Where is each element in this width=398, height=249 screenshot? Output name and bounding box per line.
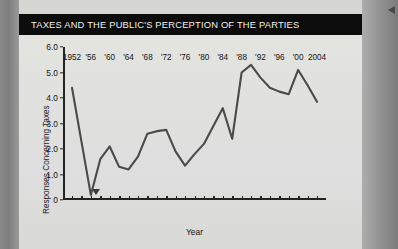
x-axis-tick-label: 1952	[63, 53, 81, 62]
x-axis-tick-mark	[72, 196, 73, 200]
plot-area: 01.02.03.04.05.06.0 1952'56'60'64'68'72'…	[63, 47, 326, 200]
x-axis-tick-label: '88	[236, 53, 247, 62]
page-corner-arrow-icon	[388, 6, 395, 14]
x-axis-tick-mark	[308, 196, 309, 200]
x-axis-tick-mark	[204, 196, 205, 200]
axis-marker-triangle-icon	[92, 189, 100, 195]
y-axis-label: Responses Concerning Taxes	[39, 95, 53, 225]
x-axis-tick-label: '80	[199, 53, 210, 62]
x-axis-tick-mark	[232, 196, 233, 200]
y-axis-tick-mark	[60, 199, 64, 200]
paper-top-margin	[19, 0, 362, 14]
x-axis-tick-label: '56	[86, 53, 97, 62]
x-axis-tick-mark	[119, 196, 120, 200]
x-axis-tick-mark	[298, 196, 299, 200]
x-axis-tick-mark	[91, 196, 92, 200]
x-axis-tick-mark	[176, 196, 177, 200]
line-series-responses-concerning-taxes	[63, 47, 326, 200]
y-axis-tick-mark	[60, 97, 64, 98]
x-axis-tick-mark	[289, 196, 290, 200]
page-root: TAXES AND THE PUBLIC'S PERCEPTION OF THE…	[0, 0, 398, 249]
chart-figure: Responses Concerning Taxes 01.02.03.04.0…	[19, 35, 362, 249]
x-axis-tick-label: '92	[255, 53, 266, 62]
x-axis-tick-mark	[129, 196, 130, 200]
x-axis-tick-mark	[270, 196, 271, 200]
x-axis-tick-mark	[157, 196, 158, 200]
x-axis-tick-label: 2004	[308, 53, 326, 62]
x-axis-tick-label: '68	[142, 53, 153, 62]
x-axis-tick-label: '00	[293, 53, 304, 62]
x-axis-tick-mark	[242, 196, 243, 200]
y-axis-tick-mark	[60, 148, 64, 149]
x-axis-tick-label: '64	[123, 53, 134, 62]
figure-title: TAXES AND THE PUBLIC'S PERCEPTION OF THE…	[19, 19, 299, 30]
x-axis-tick-label: '72	[161, 53, 172, 62]
x-axis-tick-mark	[81, 196, 82, 200]
x-axis-tick-label: '76	[180, 53, 191, 62]
y-axis-tick-mark	[60, 72, 64, 73]
x-axis-tick-mark	[166, 196, 167, 200]
x-axis-tick-mark	[138, 196, 139, 200]
x-axis-tick-mark	[195, 196, 196, 200]
x-axis-tick-mark	[260, 196, 261, 200]
x-axis-tick-mark	[279, 196, 280, 200]
x-axis-tick-label: '84	[217, 53, 228, 62]
x-axis-tick-mark	[100, 196, 101, 200]
page-gutter-right	[362, 0, 398, 249]
y-axis-tick-mark	[60, 46, 64, 47]
x-axis-tick-mark	[185, 196, 186, 200]
x-axis-tick-label: '96	[274, 53, 285, 62]
x-axis-tick-mark	[213, 196, 214, 200]
x-axis-tick-mark	[317, 196, 318, 200]
x-axis-tick-label: '60	[104, 53, 115, 62]
x-axis-tick-mark	[110, 196, 111, 200]
x-axis-tick-mark	[223, 196, 224, 200]
figure-title-bar: TAXES AND THE PUBLIC'S PERCEPTION OF THE…	[19, 14, 362, 35]
y-axis-tick-mark	[60, 123, 64, 124]
x-axis-tick-mark	[251, 196, 252, 200]
page-gutter-left	[0, 0, 19, 249]
y-axis-tick-mark	[60, 174, 64, 175]
x-axis-label: Year	[63, 227, 326, 237]
x-axis-tick-mark	[147, 196, 148, 200]
y-axis-line	[63, 47, 65, 200]
